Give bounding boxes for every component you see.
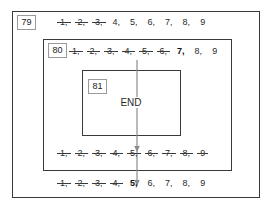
digit-token: 9	[198, 148, 207, 158]
digit-token: 2,	[76, 17, 88, 27]
step-tag-81: 81	[88, 79, 107, 94]
digit-token: 6,	[146, 17, 158, 27]
digit-token: 2,	[76, 178, 88, 188]
digit-token: 3,	[93, 17, 105, 27]
digit-token: 4,	[111, 17, 123, 27]
digit-token: 8,	[181, 148, 193, 158]
digit-token: 6,	[146, 178, 158, 188]
digit-token: 6,	[158, 46, 170, 56]
digit-token: 4,	[111, 148, 123, 158]
digit-token: 8,	[181, 17, 193, 27]
digit-token: 2,	[76, 148, 88, 158]
digit-token: 5,	[128, 148, 140, 158]
diagram-canvas: 79 80 81 END 1,2,3,4,5,6,7,8,9 1,2,3,4,5…	[0, 0, 271, 212]
digit-token: 4,	[111, 178, 123, 188]
digit-sequence-row: 1,2,3,4,5,6,7,8,9	[70, 46, 219, 56]
step-tag-79: 79	[17, 15, 36, 30]
digit-token: 7,	[163, 178, 175, 188]
digit-token: 5,	[140, 46, 152, 56]
digit-token: 1,	[58, 17, 70, 27]
digit-token: 8,	[193, 46, 205, 56]
digit-token: 6,	[146, 148, 158, 158]
digit-token: 1,	[58, 178, 70, 188]
end-label: END	[111, 97, 151, 108]
downward-flow-arrow	[130, 60, 132, 184]
digit-sequence-row: 1,2,3,4,5,6,7,8,9	[58, 178, 207, 188]
digit-sequence-row: 1,2,3,4,5,6,7,8,9	[58, 17, 207, 27]
digit-token: 7,	[163, 148, 175, 158]
digit-token: 9	[210, 46, 219, 56]
digit-token: 5,	[128, 17, 140, 27]
digit-token: 2,	[88, 46, 100, 56]
digit-token: 3,	[105, 46, 117, 56]
digit-token: 3,	[93, 178, 105, 188]
digit-sequence-row: 1,2,3,4,5,6,7,8,9	[58, 148, 207, 158]
digit-token: 9	[198, 178, 207, 188]
step-tag-80: 80	[48, 43, 67, 58]
digit-token: 4,	[123, 46, 135, 56]
digit-token: 7,	[163, 17, 175, 27]
digit-token: 7,	[175, 46, 187, 56]
digit-token: 9	[198, 17, 207, 27]
digit-token: 5,	[128, 178, 140, 188]
digit-token: 3,	[93, 148, 105, 158]
digit-token: 1,	[70, 46, 82, 56]
digit-token: 8,	[181, 178, 193, 188]
digit-token: 1,	[58, 148, 70, 158]
